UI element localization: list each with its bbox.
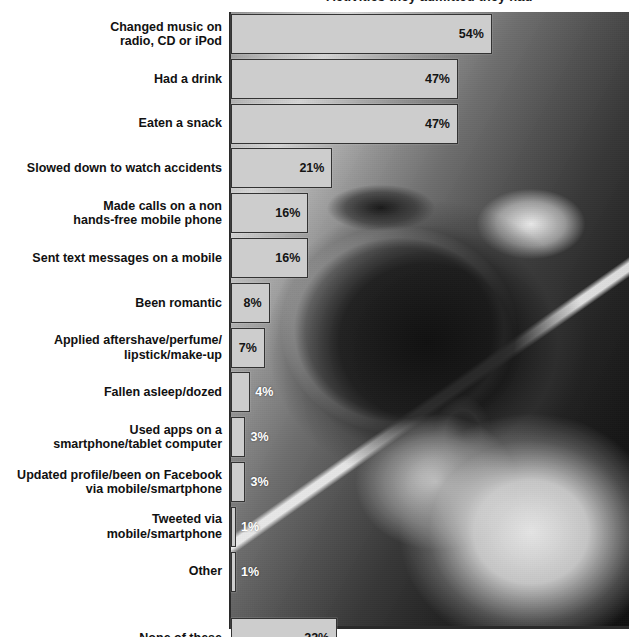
bar-row: Changed music on radio, CD or iPod54% bbox=[0, 14, 629, 54]
bar-value-label: 8% bbox=[230, 297, 262, 310]
category-label: Changed music on radio, CD or iPod bbox=[0, 20, 222, 49]
bar-value-label: 54% bbox=[452, 28, 484, 41]
bar-value-label: 16% bbox=[268, 252, 300, 265]
category-label: Sent text messages on a mobile bbox=[0, 251, 222, 266]
bar bbox=[231, 417, 245, 457]
bar-value-label: 22% bbox=[297, 632, 329, 637]
bar-row: Other1% bbox=[0, 552, 629, 592]
bar-row: Made calls on a non hands-free mobile ph… bbox=[0, 193, 629, 233]
category-label: Had a drink bbox=[0, 72, 222, 87]
bar-row: Sent text messages on a mobile16% bbox=[0, 238, 629, 278]
category-label: Tweeted via mobile/smartphone bbox=[0, 512, 222, 541]
bar-value-label: 7% bbox=[225, 342, 257, 355]
category-label: Used apps on a smartphone/tablet compute… bbox=[0, 423, 222, 452]
bar-value-label: 47% bbox=[418, 118, 450, 131]
bar-row: None of these22% bbox=[0, 618, 629, 637]
bar-row: Fallen asleep/dozed4% bbox=[0, 372, 629, 412]
bar bbox=[231, 462, 245, 502]
category-label: None of these bbox=[0, 631, 222, 637]
category-label: Made calls on a non hands-free mobile ph… bbox=[0, 199, 222, 228]
category-label: Been romantic bbox=[0, 296, 222, 311]
bar bbox=[231, 507, 236, 547]
category-label: Eaten a snack bbox=[0, 116, 222, 131]
bar-row: Slowed down to watch accidents21% bbox=[0, 148, 629, 188]
bar-row: Tweeted via mobile/smartphone1% bbox=[0, 507, 629, 547]
bar-value-label: 16% bbox=[268, 207, 300, 220]
bar-row: Eaten a snack47% bbox=[0, 104, 629, 144]
bar-value-label: 47% bbox=[418, 73, 450, 86]
category-label: Updated profile/been on Facebook via mob… bbox=[0, 468, 222, 497]
category-label: Applied aftershave/perfume/ lipstick/mak… bbox=[0, 333, 222, 362]
category-label: Slowed down to watch accidents bbox=[0, 161, 222, 176]
bar-row: Used apps on a smartphone/tablet compute… bbox=[0, 417, 629, 457]
bar-value-label: 1% bbox=[241, 521, 259, 534]
bar-row: Had a drink47% bbox=[0, 59, 629, 99]
bar-row: Been romantic8% bbox=[0, 283, 629, 323]
bar-row: Applied aftershave/perfume/ lipstick/mak… bbox=[0, 328, 629, 368]
bar-value-label: 3% bbox=[250, 431, 268, 444]
bar-value-label: 21% bbox=[292, 162, 324, 175]
bar bbox=[231, 552, 236, 592]
bar-value-label: 1% bbox=[241, 566, 259, 579]
bar-chart: Activities they admitted they had Change… bbox=[0, 0, 629, 637]
category-label: Fallen asleep/dozed bbox=[0, 385, 222, 400]
bar bbox=[231, 372, 250, 412]
bar-value-label: 4% bbox=[255, 386, 273, 399]
bar-value-label: 3% bbox=[250, 476, 268, 489]
chart-title: Activities they admitted they had bbox=[230, 0, 629, 4]
bar-row: Updated profile/been on Facebook via mob… bbox=[0, 462, 629, 502]
category-label: Other bbox=[0, 564, 222, 579]
